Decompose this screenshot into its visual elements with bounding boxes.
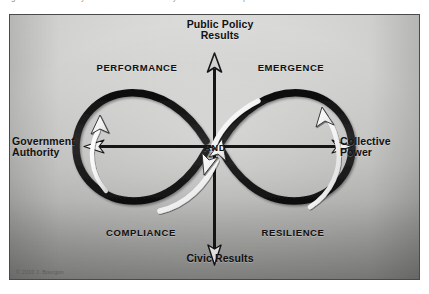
- figure-page: Figure 1. The New Synthesis Framework: a…: [0, 0, 429, 294]
- label-quadrant-performance: PERFORMANCE: [82, 62, 192, 73]
- copyright-notice: © 2010 J. Bourgon: [16, 269, 64, 275]
- label-quadrant-resilience: RESILIENCE: [238, 227, 348, 238]
- label-government-authority: Government Authority: [12, 136, 98, 158]
- figure-caption-strip: Figure 1. The New Synthesis Framework: a…: [0, 0, 429, 13]
- label-quadrant-emergence: EMERGENCE: [236, 62, 346, 73]
- right-loop-flow-arrow: [310, 107, 339, 207]
- label-civic-results: Civic Results: [160, 253, 280, 264]
- label-and: AND: [185, 142, 245, 153]
- figure-caption-text: Figure 1. The New Synthesis Framework: a…: [4, 0, 355, 2]
- label-quadrant-compliance: COMPLIANCE: [86, 227, 196, 238]
- label-collective-power: Collective Power: [340, 136, 420, 158]
- label-public-policy-results: Public Policy Results: [160, 19, 280, 41]
- arrowhead-right-loop-up: [316, 107, 334, 127]
- figure-panel: Public Policy Results Civic Results Gove…: [9, 14, 420, 280]
